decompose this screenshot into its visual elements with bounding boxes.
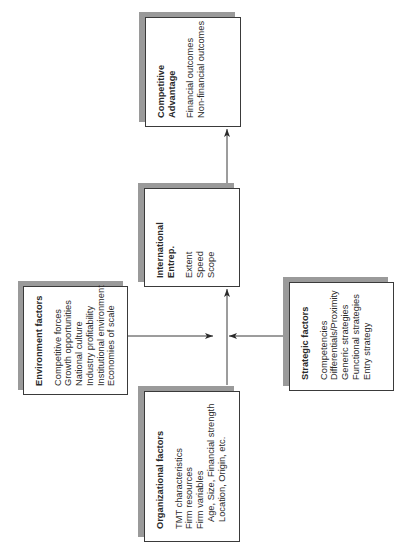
- international-entrep-title-1: International: [155, 189, 166, 278]
- organizational-factors-item: Firm resources: [184, 392, 195, 529]
- environment-factors-item: Institutional environment: [96, 287, 107, 386]
- competitive-advantage-item: Financial outcomes: [185, 18, 196, 118]
- organizational-factors-item: TMT characteristics: [174, 392, 185, 529]
- environment-factors-item: Industry profitability: [85, 287, 96, 386]
- international-entrep-box: International Entrep. Extent Speed Scope: [144, 188, 240, 287]
- environment-factors-item: Competitive forces: [53, 287, 64, 386]
- organizational-factors-item: Firm variables: [195, 392, 206, 529]
- strategic-factors-item: Differentials/Proximity: [329, 283, 340, 380]
- organizational-factors-box: Organizational factors TMT characteristi…: [144, 391, 240, 542]
- organizational-factors-subitem: Location, Origin, etc.: [217, 392, 228, 529]
- strategic-factors-item: Functional strategies: [351, 283, 362, 380]
- international-entrep-item: Extent: [184, 189, 195, 278]
- strategic-factors-title: Strategic factors: [300, 283, 311, 380]
- international-entrep-item: Scope: [206, 189, 217, 278]
- strategic-factors-item: Generic strategies: [340, 283, 351, 380]
- environment-factors-item: National culture: [74, 287, 85, 386]
- competitive-advantage-title-1: Competitive: [156, 18, 167, 118]
- environment-factors-box: Environment factors Competitive forces G…: [23, 286, 128, 395]
- international-entrep-title-2: Entrep.: [166, 189, 177, 278]
- organizational-factors-subitem: Age, Size, Financial strength: [206, 392, 217, 529]
- strategic-factors-box: Strategic factors Competencies Different…: [289, 282, 394, 391]
- strategic-factors-item: Competencies: [319, 283, 330, 380]
- environment-factors-item: Economies of scale: [106, 287, 117, 386]
- organizational-factors-title: Organizational factors: [155, 392, 166, 529]
- competitive-advantage-item: Non-financial outcomes: [196, 18, 207, 118]
- environment-factors-item: Growth opportunities: [63, 287, 74, 386]
- strategic-factors-item: Entry strategy: [362, 283, 373, 380]
- environment-factors-title: Environment factors: [34, 287, 45, 386]
- competitive-advantage-title-2: Advantage: [167, 18, 178, 118]
- competitive-advantage-box: Competitive Advantage Financial outcomes…: [145, 17, 241, 127]
- international-entrep-item: Speed: [195, 189, 206, 278]
